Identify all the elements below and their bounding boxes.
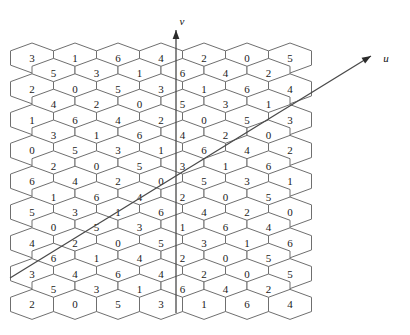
hex-label: 5	[115, 83, 121, 95]
hex-label: 0	[94, 160, 100, 172]
hex-label: 6	[266, 160, 272, 172]
hex-label: 6	[94, 191, 100, 203]
hex-label: 2	[266, 283, 272, 295]
hex-label: 2	[223, 129, 229, 141]
hex-label: 0	[72, 298, 78, 310]
u-axis-arrowhead-icon	[362, 56, 371, 64]
hex-label: 6	[244, 298, 250, 310]
hex-label: 2	[29, 298, 35, 310]
hex-label: 1	[223, 160, 229, 172]
v-axis-arrowhead-icon	[173, 30, 180, 39]
hex-label: 0	[266, 129, 272, 141]
hex-lattice-figure: 3164205531642205316442053116420533164200…	[0, 0, 410, 335]
hex-label: 6	[180, 67, 186, 79]
hex-label: 3	[94, 283, 100, 295]
hex-label: 1	[137, 67, 143, 79]
hex-label: 6	[137, 129, 143, 141]
hex-label: 0	[201, 114, 207, 126]
hex-label: 0	[287, 206, 293, 218]
hex-label: 6	[29, 175, 35, 187]
hex-label: 1	[72, 52, 78, 64]
hex-label: 5	[72, 144, 78, 156]
v-axis-label: v	[180, 15, 185, 27]
hex-label: 1	[94, 129, 100, 141]
hex-label: 1	[266, 98, 272, 110]
hex-label: 0	[72, 83, 78, 95]
hex-label: 6	[158, 206, 164, 218]
hex-label: 0	[137, 98, 143, 110]
hex-label: 5	[115, 298, 121, 310]
hex-label: 4	[115, 114, 121, 126]
hex-label: 3	[29, 52, 35, 64]
hex-label: 2	[29, 83, 35, 95]
hex-label: 6	[51, 252, 57, 264]
hex-label: 3	[115, 144, 121, 156]
hex-label: 0	[51, 221, 57, 233]
hex-label: 0	[244, 268, 250, 280]
hex-label: 0	[244, 52, 250, 64]
hex-label: 3	[223, 98, 229, 110]
hex-label: 4	[223, 67, 229, 79]
hex-label: 0	[223, 252, 229, 264]
hex-label: 2	[180, 252, 186, 264]
hex-label: 1	[180, 221, 186, 233]
u-axis-label: u	[383, 52, 389, 64]
hex-label: 4	[223, 283, 229, 295]
figure-canvas: 3164205531642205316442053116420533164200…	[0, 0, 410, 335]
hex-label: 3	[244, 175, 250, 187]
hex-label: 6	[72, 114, 78, 126]
hex-label: 3	[72, 206, 78, 218]
hex-label: 1	[287, 175, 293, 187]
hex-label: 4	[29, 237, 35, 249]
hex-label: 4	[137, 252, 143, 264]
hex-label: 3	[158, 83, 164, 95]
hex-label: 2	[287, 144, 293, 156]
hex-label: 6	[115, 52, 121, 64]
hex-label: 0	[223, 191, 229, 203]
hex-label: 5	[158, 237, 164, 249]
hex-label: 5	[51, 67, 57, 79]
hex-label: 4	[244, 144, 250, 156]
hex-label: 2	[51, 160, 57, 172]
hex-label: 4	[287, 298, 293, 310]
hex-label: 4	[158, 52, 164, 64]
hexagon-layer: 3164205531642205316442053116420533164200…	[11, 43, 312, 319]
hex-label: 5	[287, 268, 293, 280]
hex-label: 5	[201, 175, 207, 187]
hex-label: 1	[29, 114, 35, 126]
hex-label: 2	[115, 175, 121, 187]
hex-label: 1	[201, 83, 207, 95]
hex-label: 4	[72, 268, 78, 280]
hex-label: 5	[51, 283, 57, 295]
hex-label: 3	[201, 237, 207, 249]
hex-label: 5	[29, 206, 35, 218]
hex-label: 6	[180, 283, 186, 295]
hex-label: 6	[201, 144, 207, 156]
hex-label: 2	[266, 67, 272, 79]
hex-label: 5	[137, 160, 143, 172]
hex-label: 1	[51, 191, 57, 203]
hex-label: 5	[244, 114, 250, 126]
hex-label: 4	[51, 98, 57, 110]
hex-label: 1	[201, 298, 207, 310]
hex-label: 2	[244, 206, 250, 218]
hex-label: 3	[94, 67, 100, 79]
hex-label: 4	[266, 221, 272, 233]
hex-label: 4	[201, 206, 207, 218]
hex-label: 3	[158, 298, 164, 310]
hex-label: 3	[29, 268, 35, 280]
hex-label: 3	[137, 221, 143, 233]
hex-label: 6	[287, 237, 293, 249]
hex-label: 2	[201, 52, 207, 64]
hex-label: 2	[94, 98, 100, 110]
hex-label: 4	[180, 129, 186, 141]
hex-label: 2	[158, 114, 164, 126]
hex-label: 0	[115, 237, 121, 249]
hex-label: 6	[223, 221, 229, 233]
hex-label: 5	[266, 252, 272, 264]
hex-label: 3	[51, 129, 57, 141]
hex-label: 2	[180, 191, 186, 203]
hex-label: 5	[287, 52, 293, 64]
hex-label: 1	[137, 283, 143, 295]
hex-label: 1	[158, 144, 164, 156]
